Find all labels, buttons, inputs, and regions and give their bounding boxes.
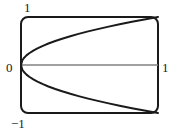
- y-max-label: 1: [24, 1, 31, 14]
- curve-upper-branch: [21, 17, 158, 65]
- curve-lower-branch: [21, 65, 158, 113]
- parabola-figure: 1 0 −1 1: [0, 0, 175, 133]
- y-min-label: −1: [11, 117, 25, 130]
- plot-canvas: [0, 0, 175, 133]
- origin-label: 0: [6, 61, 13, 74]
- x-max-label: 1: [162, 61, 169, 74]
